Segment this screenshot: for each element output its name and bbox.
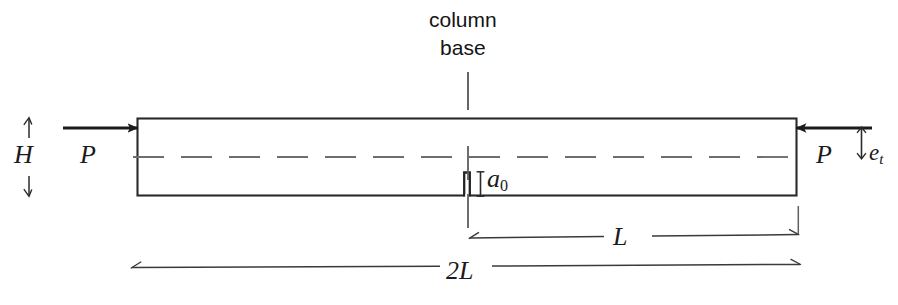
eccentricity-label: et (869, 141, 883, 166)
half-length-label: L (613, 224, 627, 250)
dimension-line-L (469, 206, 799, 238)
load-label-right: P (816, 142, 832, 168)
column-base-label-line2: base (429, 34, 497, 62)
figure-canvas: column base H P P et a0 L 2L (0, 0, 898, 305)
eccentricity-bracket (857, 127, 865, 159)
height-label: H (14, 142, 33, 168)
column-base-label: column base (429, 6, 497, 62)
column-base-label-line1: column (429, 6, 497, 34)
crack-depth-label: a0 (487, 166, 508, 194)
load-label-left: P (80, 142, 96, 168)
eccentricity-label-base: e (869, 140, 879, 165)
crack-depth-label-base: a (487, 164, 500, 193)
crack-notch (464, 173, 470, 197)
full-length-label: 2L (446, 258, 473, 284)
eccentricity-label-subscript: t (879, 150, 883, 167)
crack-depth-label-subscript: 0 (500, 177, 508, 194)
